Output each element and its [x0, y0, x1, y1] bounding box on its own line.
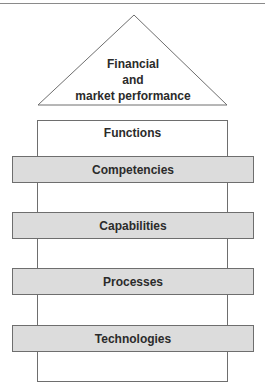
- apex-line-2: and: [38, 72, 228, 88]
- apex-line-1: Financial: [38, 56, 228, 72]
- layer-processes: Processes: [12, 268, 254, 295]
- layer-label: Technologies: [95, 332, 171, 346]
- layer-capabilities: Capabilities: [12, 212, 254, 239]
- layer-competencies: Competencies: [12, 156, 254, 183]
- apex-label: Financial and market performance: [38, 56, 228, 104]
- layer-label: Processes: [103, 275, 163, 289]
- functions-title: Functions: [37, 125, 228, 141]
- layer-label: Competencies: [92, 163, 174, 177]
- layer-label: Capabilities: [99, 219, 166, 233]
- layer-technologies: Technologies: [12, 325, 254, 352]
- apex-line-3: market performance: [38, 88, 228, 104]
